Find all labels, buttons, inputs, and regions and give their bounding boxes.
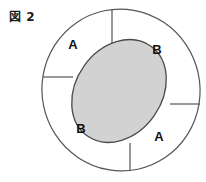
region-label-b-bottom-left: B <box>76 121 85 136</box>
region-label-b-top-right: B <box>152 42 161 57</box>
figure-container: 図 2 A B B A <box>0 0 206 182</box>
region-label-a-bottom-right: A <box>154 129 164 144</box>
annulus-diagram: A B B A <box>0 0 206 182</box>
region-label-a-top-left: A <box>68 37 78 52</box>
